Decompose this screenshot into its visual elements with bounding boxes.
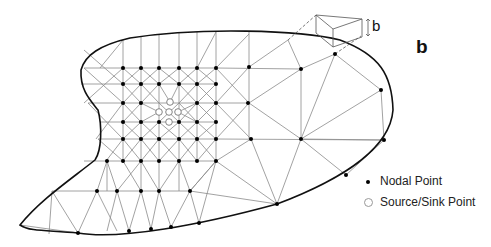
- legend-item-nodal-point: Nodal Point: [362, 170, 475, 191]
- legend-item-source-sink-point: Source/Sink Point: [362, 191, 475, 212]
- filled-dot-icon: [362, 175, 376, 187]
- mesh-grid-lines: [20, 32, 384, 234]
- open-circle-icon: [362, 196, 376, 208]
- legend-label: Nodal Point: [380, 174, 442, 188]
- panel-label: b: [416, 36, 428, 58]
- thickness-label: b: [372, 17, 380, 34]
- nodal-points: [76, 52, 386, 235]
- legend: Nodal Point Source/Sink Point: [362, 170, 475, 212]
- legend-label: Source/Sink Point: [380, 195, 475, 209]
- domain-boundary: [20, 31, 393, 235]
